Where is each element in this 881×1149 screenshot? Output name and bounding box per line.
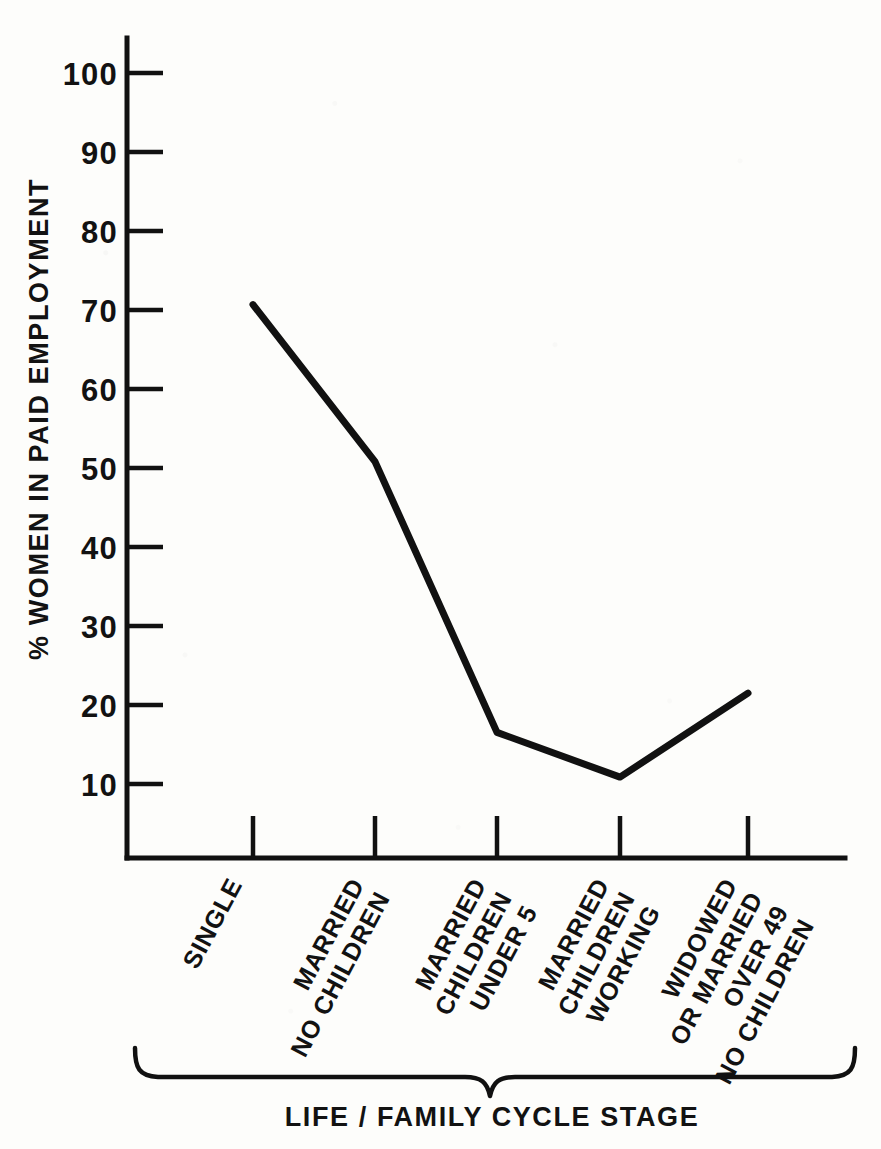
y-tick-label-10: 10	[81, 768, 118, 803]
x-category-label-2: MARRIED CHILDREN UNDER 5	[403, 873, 543, 1033]
y-tick-label-100: 100	[63, 57, 118, 92]
x-category-label-0: SINGLE	[177, 873, 248, 973]
y-tick-label-20: 20	[81, 689, 118, 724]
y-tick-label-90: 90	[81, 136, 118, 171]
x-category-label-1: MARRIED NO CHILDREN	[259, 873, 395, 1061]
chart-page: 100 90 80 70 60 50 40 30 20 10 % WOMEN I…	[0, 0, 881, 1149]
y-axis-title: % WOMEN IN PAID EMPLOYMENT	[24, 178, 54, 660]
y-tick-label-50: 50	[81, 452, 118, 487]
data-series-line	[253, 305, 748, 777]
y-tick-label-40: 40	[81, 531, 118, 566]
y-tick-label-70: 70	[81, 294, 118, 329]
x-category-label-4: WIDOWED OR MARRIED OVER 49 NO CHILDREN	[632, 873, 819, 1088]
x-axis-ticks	[253, 816, 748, 858]
x-category-label-3: MARRIED CHILDREN WORKING	[526, 873, 666, 1033]
y-tick-label-30: 30	[81, 610, 118, 645]
x-axis-title: LIFE / FAMILY CYCLE STAGE	[285, 1102, 700, 1132]
x-category-label-0-line-0: SINGLE	[177, 873, 248, 973]
line-chart: 100 90 80 70 60 50 40 30 20 10 % WOMEN I…	[0, 0, 881, 1149]
y-tick-label-60: 60	[81, 373, 118, 408]
y-tick-label-80: 80	[81, 215, 118, 250]
x-axis-category-labels: SINGLE MARRIED NO CHILDREN MARRIED CHILD…	[177, 873, 819, 1088]
y-axis-ticks	[127, 73, 163, 784]
y-axis-tick-labels: 100 90 80 70 60 50 40 30 20 10	[63, 57, 118, 803]
